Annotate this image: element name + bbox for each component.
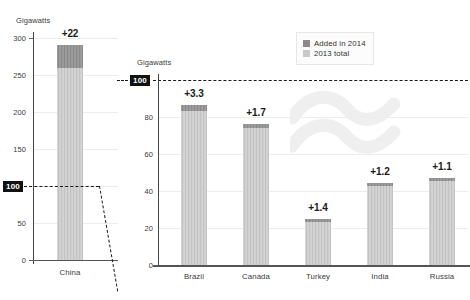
- china-panel: Gigawatts 300 250 200 150 50 0 100 +22 C…: [0, 0, 122, 300]
- connector-dash-left: [24, 186, 99, 187]
- left-tick-250: 250: [4, 71, 26, 80]
- right-tick-60: 60: [133, 150, 153, 159]
- value-label-turkey: +1.4: [298, 202, 338, 213]
- wave-watermark-icon: [290, 88, 405, 168]
- bar-china-2013-total: [57, 68, 83, 260]
- left-tick-0: 0: [4, 256, 26, 265]
- value-label-canada: +1.7: [236, 107, 276, 118]
- right-axis-unit-label: Gigawatts: [137, 58, 171, 67]
- value-label-brazil: +3.3: [174, 88, 214, 99]
- bar-turkey-2013-total: [305, 222, 331, 265]
- bar-turkey-added-2014: [305, 219, 331, 222]
- left-y-axis: [33, 32, 34, 264]
- left-axis-unit-label: Gigawatts: [16, 16, 50, 25]
- right-tick-80: 80: [133, 113, 153, 122]
- chart-legend: Added in 2014 2013 total: [296, 32, 374, 65]
- right-tick-40: 40: [133, 187, 153, 196]
- left-tick-50: 50: [4, 219, 26, 228]
- bar-russia-added-2014: [429, 178, 455, 181]
- category-label-india: India: [360, 272, 400, 281]
- bar-brazil-2013-total: [181, 111, 207, 265]
- bar-canada-2013-total: [243, 128, 269, 265]
- category-label-china: China: [50, 268, 90, 277]
- category-label-brazil: Brazil: [174, 272, 214, 281]
- right-x-axis: [153, 265, 470, 267]
- left-x-axis: [29, 260, 118, 261]
- category-label-russia: Russia: [422, 272, 462, 281]
- legend-entry-added-2014: Added in 2014: [303, 39, 366, 48]
- legend-swatch-added-2014: [303, 40, 310, 47]
- chart-canvas: Gigawatts 300 250 200 150 50 0 100 +22 C…: [0, 0, 470, 300]
- value-label-india: +1.2: [360, 166, 400, 177]
- value-label-china: +22: [50, 28, 90, 39]
- legend-label-2013-total: 2013 total: [314, 49, 349, 58]
- right-tick-20: 20: [133, 224, 153, 233]
- right-y-axis: [158, 74, 159, 265]
- value-label-russia: +1.1: [422, 161, 462, 172]
- bar-brazil-added-2014: [181, 105, 207, 111]
- right-tick-100-highlight: 100: [130, 75, 150, 86]
- bar-canada-added-2014: [243, 124, 269, 128]
- category-label-canada: Canada: [236, 272, 276, 281]
- legend-entry-2013-total: 2013 total: [303, 49, 366, 58]
- left-tick-150: 150: [4, 145, 26, 154]
- left-tick-100-highlight: 100: [3, 181, 23, 192]
- bar-russia-2013-total: [429, 181, 455, 265]
- left-tick-200: 200: [4, 108, 26, 117]
- bar-china-added-2014: [57, 45, 83, 68]
- right-tick-0: 0: [133, 261, 153, 270]
- legend-swatch-2013-total: [303, 50, 310, 57]
- category-label-turkey: Turkey: [298, 272, 338, 281]
- bar-india-added-2014: [367, 183, 393, 186]
- reference-line-100: [153, 80, 468, 81]
- bar-india-2013-total: [367, 186, 393, 265]
- left-tick-300: 300: [4, 34, 26, 43]
- legend-label-added-2014: Added in 2014: [314, 39, 366, 48]
